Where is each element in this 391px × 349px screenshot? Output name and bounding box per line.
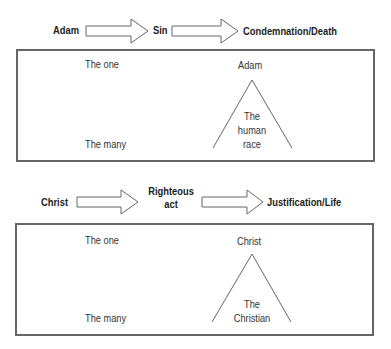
the-many-label: The many (85, 138, 126, 150)
triangle-text-line: The (226, 110, 279, 122)
the-one-label: The one (85, 58, 119, 70)
flow-source-label: Adam (53, 24, 79, 36)
panel-box (15, 223, 374, 336)
triangle-text-line: race (226, 138, 279, 150)
the-many-label: The many (85, 312, 126, 324)
arrow-icon (172, 19, 238, 43)
triangle-text-line: The (226, 298, 279, 310)
apex-label: Christ (237, 235, 261, 247)
apex-label: Adam (238, 59, 262, 71)
flow-middle-label: Righteous (145, 185, 198, 197)
flow-source-label: Christ (41, 196, 68, 208)
flow-middle-label: Sin (153, 24, 168, 36)
arrow-icon (202, 190, 263, 214)
flow-middle-label: act (145, 198, 198, 210)
arrow-icon (77, 190, 138, 214)
arrow-icon (86, 19, 148, 43)
the-one-label: The one (85, 234, 119, 246)
flow-result-label: Justification/Life (267, 196, 341, 208)
triangle-text-line: Christian (226, 312, 279, 324)
panel-box (16, 49, 375, 162)
triangle-text-line: human (226, 124, 279, 136)
flow-result-label: Condemnation/Death (243, 25, 337, 37)
